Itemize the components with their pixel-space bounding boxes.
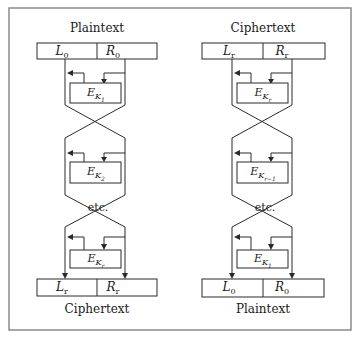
left-bottom-label: Ciphertext — [65, 302, 130, 316]
left-top-label: Plaintext — [70, 21, 124, 35]
right-round-r-label: EK1 — [254, 252, 272, 269]
right-round-1-label: EKr — [255, 86, 272, 103]
right-bottom-label: Plaintext — [236, 302, 290, 316]
left-top-l: L0 — [55, 44, 68, 60]
left-round-1-label: EK1 — [87, 86, 105, 103]
right-bottom-l: L0 — [222, 280, 235, 296]
right-top-label: Ciphertext — [231, 21, 296, 35]
left-round-2-label: EK2 — [87, 165, 105, 182]
left-round-r-label: EKr — [88, 252, 105, 269]
right-etc-label: etc. — [255, 201, 276, 214]
right-top-l: Lr — [223, 44, 235, 60]
left-top-r: R0 — [106, 44, 120, 60]
left-etc-label: etc. — [88, 201, 109, 214]
left-bottom-r: Rr — [107, 280, 120, 296]
right-top-r: Rr — [276, 44, 289, 60]
right-bottom-r: R0 — [275, 280, 289, 296]
left-bottom-l: Lr — [56, 280, 68, 296]
right-round-2-label: EKr−1 — [250, 165, 276, 182]
